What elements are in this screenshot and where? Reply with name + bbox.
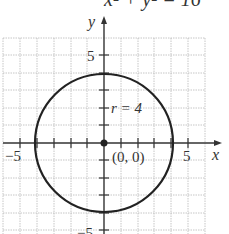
y-tick-label-neg5: −5 [77, 225, 93, 234]
circle-graph: x² + y² = 16 [0, 0, 229, 234]
x-tick-label-neg5: −5 [5, 148, 21, 164]
y-axis-arrow-icon [101, 16, 107, 24]
radius-label: r = 4 [111, 100, 142, 116]
x-axis-label: x [211, 146, 219, 163]
y-axis-label: y [86, 13, 96, 31]
axes [3, 20, 218, 234]
equation-fragment: x² + y² = 16 [103, 0, 201, 11]
center-label: (0, 0) [112, 149, 145, 166]
x-tick-label-pos5: 5 [183, 148, 191, 164]
center-point [101, 140, 108, 147]
y-tick-label-pos5: 5 [87, 48, 95, 64]
